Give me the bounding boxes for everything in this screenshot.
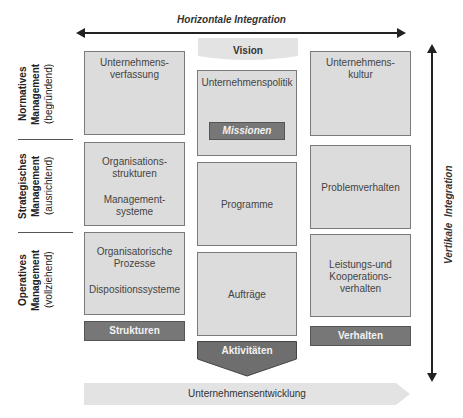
box-text: verhalten bbox=[311, 283, 410, 295]
box-text: Leistungs-und bbox=[311, 259, 410, 271]
row-paren: (vollziehend) bbox=[43, 252, 54, 309]
box-text: Unternehmenspolitik bbox=[198, 77, 296, 89]
box-auftraege: Aufträge bbox=[197, 252, 297, 336]
unternehmensentwicklung-label: Unternehmensentwicklung bbox=[84, 388, 410, 399]
row-separator bbox=[18, 139, 73, 140]
box-programme: Programme bbox=[197, 162, 297, 246]
horizontal-integration-label: Horizontale Integration bbox=[0, 14, 463, 25]
box-text: strukturen bbox=[85, 168, 184, 180]
box-leistungs-kooperationsverhalten: Leistungs-und Kooperations- verhalten bbox=[310, 234, 411, 317]
box-text: Kooperations- bbox=[311, 271, 410, 283]
box-unternehmenspolitik: Unternehmenspolitik bbox=[197, 70, 297, 156]
box-text: Problemverhalten bbox=[321, 182, 399, 193]
box-text: systeme bbox=[85, 206, 184, 218]
box-text: Dispositionssysteme bbox=[85, 284, 184, 296]
row-label-normative: Normatives Management (begründend) bbox=[16, 58, 55, 130]
double-arrow-vertical-icon bbox=[426, 44, 438, 382]
box-problemverhalten: Problemverhalten bbox=[310, 145, 411, 229]
box-text: Programme bbox=[221, 199, 273, 210]
box-unternehmenskultur: Unternehmens- kultur bbox=[310, 51, 411, 136]
box-organisationsstrukturen: Organisations- strukturen Management- sy… bbox=[84, 142, 185, 226]
aktivitaeten-label: Aktivitäten bbox=[197, 345, 297, 356]
row-name: Operatives bbox=[17, 254, 28, 306]
box-text: Unternehmens- bbox=[85, 57, 184, 69]
vision-label: Vision bbox=[198, 45, 298, 56]
box-organisatorische-prozesse: Organisatorische Prozesse Dispositionssy… bbox=[84, 232, 185, 315]
box-text: kultur bbox=[311, 69, 410, 81]
box-text: Aufträge bbox=[228, 289, 266, 300]
footer-strukturen: Strukturen bbox=[84, 321, 185, 341]
row-sub: Management bbox=[30, 63, 41, 124]
box-text: verfassung bbox=[85, 69, 184, 81]
row-sub: Management bbox=[30, 155, 41, 216]
box-text: Organisations- bbox=[85, 156, 184, 168]
box-text: Unternehmens- bbox=[311, 57, 410, 69]
footer-verhalten: Verhalten bbox=[310, 326, 411, 346]
box-text: Management- bbox=[85, 194, 184, 206]
box-unternehmensverfassung: Unternehmens- verfassung bbox=[84, 51, 185, 135]
row-name: Strategisches bbox=[17, 153, 28, 219]
row-paren: (ausrichtend) bbox=[43, 157, 54, 215]
row-name: Normatives bbox=[17, 67, 28, 121]
row-sub: Management bbox=[30, 249, 41, 310]
row-label-operative: Operatives Management (vollziehend) bbox=[16, 240, 55, 320]
row-paren: (begründend) bbox=[43, 64, 54, 124]
missionen-badge: Missionen bbox=[209, 122, 285, 140]
box-text: Organisatorische bbox=[85, 246, 184, 258]
vertical-integration-label: Vertikale Integration bbox=[443, 140, 454, 290]
box-text: Prozesse bbox=[85, 258, 184, 270]
row-label-strategic: Strategisches Management (ausrichtend) bbox=[16, 146, 55, 226]
row-separator bbox=[18, 232, 73, 233]
